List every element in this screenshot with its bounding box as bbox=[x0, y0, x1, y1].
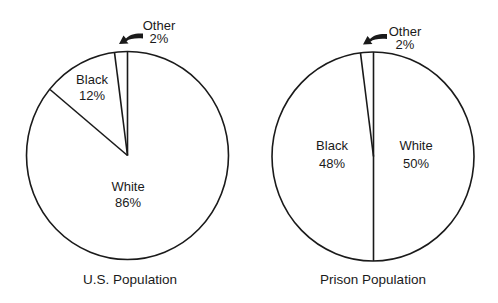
prison-other-pct: 2% bbox=[384, 37, 426, 52]
us-black-label: Black 12% bbox=[72, 72, 112, 103]
us-population-pie bbox=[27, 52, 229, 260]
prison-white-name: White bbox=[395, 138, 437, 153]
prison-white-label: White 50% bbox=[395, 138, 437, 171]
prison-other-label: Other 2% bbox=[384, 24, 426, 52]
prison-white-pct: 50% bbox=[395, 156, 437, 171]
prison-population-caption: Prison Population bbox=[310, 272, 436, 288]
us-other-label: Other 2% bbox=[138, 18, 180, 46]
us-white-label: White 86% bbox=[107, 179, 149, 210]
prison-black-pct: 48% bbox=[311, 156, 353, 171]
us-population-caption: U.S. Population bbox=[70, 272, 190, 288]
us-black-name: Black bbox=[72, 72, 112, 87]
us-black-pct: 12% bbox=[72, 88, 112, 103]
prison-black-name: Black bbox=[311, 138, 353, 153]
us-other-pct: 2% bbox=[138, 31, 180, 46]
prison-population-pie bbox=[272, 52, 474, 261]
prison-black-label: Black 48% bbox=[311, 138, 353, 171]
us-white-pct: 86% bbox=[107, 195, 149, 210]
us-white-name: White bbox=[107, 179, 149, 194]
